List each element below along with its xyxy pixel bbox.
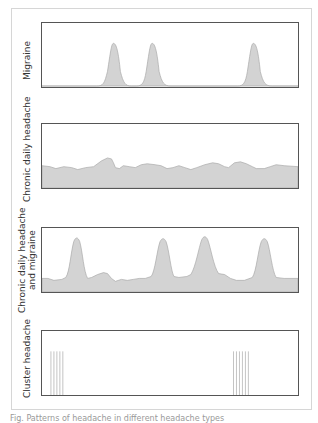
panel-migraine <box>41 22 299 88</box>
panel-chronic-migraine <box>41 227 299 293</box>
ylabel-chronic-migraine: Chronic daily headache and migraine <box>17 207 37 313</box>
cluster-group-1 <box>51 351 63 395</box>
ylabel-migraine: Migraine <box>22 41 32 80</box>
figure-caption: Fig. Patterns of headache in different h… <box>10 414 224 423</box>
cluster-group-2 <box>234 351 249 395</box>
panel-cluster <box>41 330 299 396</box>
ylabel-cluster: Cluster headache <box>22 319 32 398</box>
chronic-migraine-chart <box>42 228 298 292</box>
ylabel-chronic-daily: Chronic daily headache <box>22 96 32 202</box>
chronic-daily-chart <box>42 124 298 188</box>
ylabel-line1: Chronic daily headache <box>17 207 27 313</box>
migraine-chart <box>42 23 298 87</box>
ylabel-line2: and migraine <box>27 207 37 313</box>
panel-chronic-daily <box>41 123 299 189</box>
cluster-chart <box>42 331 298 395</box>
